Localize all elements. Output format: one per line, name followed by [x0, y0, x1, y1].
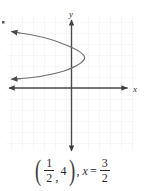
- fraction-numerator: 1: [44, 157, 54, 169]
- fraction-denominator: 2: [44, 172, 54, 184]
- equals-sign: =: [90, 165, 97, 177]
- coordinate-plane-svg: x y: [0, 0, 144, 158]
- close-paren: ): [68, 158, 74, 183]
- caption: ( 1 2 , 4 ) , x = 3 2: [0, 157, 144, 191]
- grid-background: [6, 16, 134, 150]
- fraction-denominator: 2: [100, 172, 110, 184]
- expression-separator: ,: [77, 165, 80, 177]
- stray-dot-mark: [2, 21, 5, 24]
- fraction-one-half: 1 2: [44, 157, 54, 184]
- y-axis-label: y: [68, 9, 73, 19]
- math-expression: ( 1 2 , 4 ) , x = 3 2: [33, 157, 110, 184]
- point-y-value: 4: [61, 165, 67, 177]
- line-variable: x: [83, 165, 88, 177]
- parabola-lower-branch-arrow: [12, 79, 22, 80]
- fraction-three-halves: 3 2: [100, 157, 110, 184]
- open-paren: (: [35, 158, 41, 183]
- graph-figure: x y: [0, 0, 144, 158]
- point-comma: ,: [55, 170, 58, 184]
- x-axis-label: x: [132, 84, 137, 94]
- fraction-numerator: 3: [100, 157, 110, 169]
